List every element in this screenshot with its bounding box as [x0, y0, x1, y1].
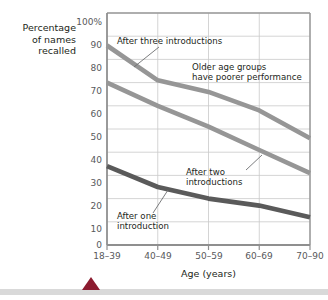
leader-line-after-one: [153, 190, 168, 213]
chart-figure: Percentage of names recalled 100% 90 80 …: [0, 0, 328, 300]
x-tick-label: 50–59: [185, 251, 233, 261]
x-tick-label: 60–69: [235, 251, 283, 261]
footer-triangle-marker: [82, 277, 100, 290]
annotation-after-one-introduction: After one introduction: [117, 211, 169, 231]
x-tick-label: 40–49: [134, 251, 182, 261]
leader-line-after-three: [134, 47, 159, 67]
annotation-older-age-groups: Older age groups have poorer performance: [192, 62, 302, 82]
x-tick-label: 18–39: [83, 251, 131, 261]
annotation-after-two-introductions: After two introductions: [186, 167, 242, 187]
x-axis-title: Age (years): [107, 268, 310, 279]
annotation-after-three-introductions: After three introductions: [117, 36, 222, 46]
x-tick-label: 70–90: [286, 251, 328, 261]
footer-divider: [0, 289, 328, 295]
